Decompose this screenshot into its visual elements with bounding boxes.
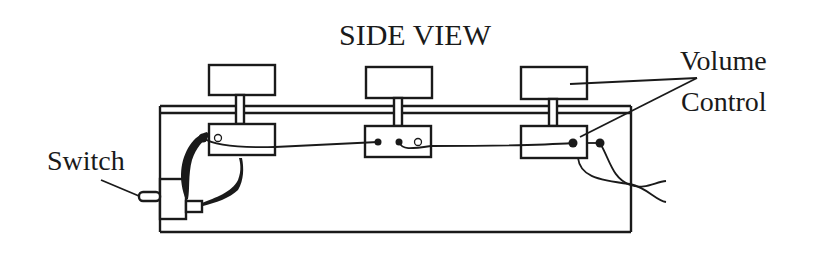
open-terminal-icon — [415, 139, 422, 146]
right-volume-knob — [521, 67, 587, 126]
switch-label: Switch — [47, 145, 125, 176]
switch-lead — [181, 132, 210, 200]
diagram-title: SIDE VIEW — [339, 18, 492, 51]
volume-pointer-to-knob — [570, 78, 697, 84]
switch-pointer-line — [101, 180, 139, 196]
wiring — [203, 138, 666, 202]
volume-pointer-to-pot — [580, 78, 697, 137]
middle-volume-knob — [366, 67, 432, 126]
open-terminal-icon — [215, 135, 222, 142]
left-volume-knob — [209, 65, 275, 124]
volume-control-label-line2: Control — [681, 86, 767, 117]
volume-control-label-line1: Volume — [680, 45, 767, 76]
left-potentiometer — [199, 124, 276, 155]
side-view-wiring-diagram: SIDE VIEW — [0, 0, 832, 258]
switch-lead — [202, 158, 243, 206]
